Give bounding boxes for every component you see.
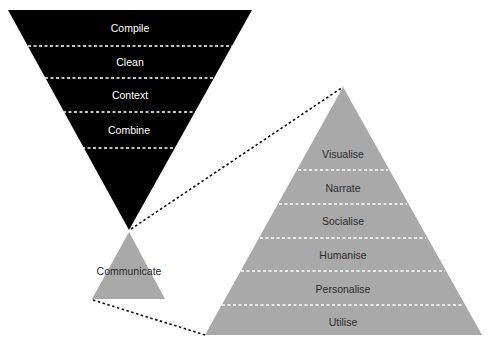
funnel-stage-clean: Clean xyxy=(116,56,143,68)
pyramid-stage-utilise: Utilise xyxy=(329,316,358,328)
pyramid-stage-personalise: Personalise xyxy=(316,283,371,295)
funnel-stage-context: Context xyxy=(112,89,148,101)
pyramid-stage-humanise: Humanise xyxy=(319,249,366,261)
pyramid-stage-narrate: Narrate xyxy=(325,182,360,194)
diagram-canvas: Compile Clean Context Combine Communicat… xyxy=(0,0,494,345)
connector-bottom xyxy=(93,300,205,335)
pyramid-stage-socialise: Socialise xyxy=(322,215,364,227)
funnel-stage-combine: Combine xyxy=(108,124,150,136)
pyramid-stage-visualise: Visualise xyxy=(322,148,364,160)
funnel-stage-compile: Compile xyxy=(111,22,150,34)
pyramid-triangle xyxy=(205,87,482,335)
hub-label: Communicate xyxy=(97,265,162,277)
funnel-triangle xyxy=(8,10,252,230)
diagram-shapes xyxy=(0,0,494,345)
